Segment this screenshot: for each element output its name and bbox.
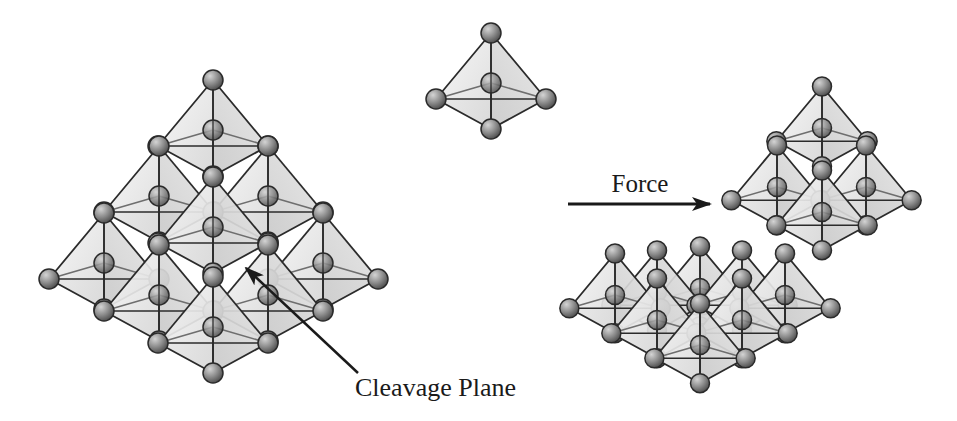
atom	[648, 241, 667, 260]
atom	[560, 299, 579, 318]
atom	[313, 301, 333, 321]
atom	[203, 167, 223, 187]
atom	[368, 269, 388, 289]
atom	[606, 244, 625, 263]
atom	[149, 235, 169, 255]
atom	[148, 333, 168, 353]
atom	[733, 241, 752, 260]
atom	[902, 191, 921, 210]
atom	[39, 269, 59, 289]
intact-crystal	[39, 70, 388, 383]
atom	[602, 324, 621, 343]
atom	[648, 269, 667, 288]
atom	[203, 267, 223, 287]
atom	[736, 349, 755, 368]
atom	[778, 324, 797, 343]
tetrahedron	[426, 23, 556, 139]
atom	[857, 136, 876, 155]
atom	[733, 269, 752, 288]
cleavage-diagram: Force Cleavage Plane	[0, 0, 957, 421]
atom	[821, 299, 840, 318]
atom	[149, 136, 169, 156]
atom	[313, 203, 333, 223]
atom	[94, 301, 114, 321]
atom	[813, 241, 832, 260]
atom	[767, 216, 786, 235]
atom	[536, 89, 556, 109]
atom	[481, 23, 501, 43]
atom	[258, 235, 278, 255]
force-arrow: Force	[568, 170, 710, 204]
cleavage-plane-label: Cleavage Plane	[355, 373, 516, 402]
atom	[722, 191, 741, 210]
atom	[768, 136, 787, 155]
atom	[813, 161, 832, 180]
atom	[481, 119, 501, 139]
atom	[94, 203, 114, 223]
atom	[691, 374, 710, 393]
atom	[691, 294, 710, 313]
atom	[858, 216, 877, 235]
atom	[203, 70, 223, 90]
atom	[203, 363, 223, 383]
atom	[691, 237, 710, 256]
atom	[258, 136, 278, 156]
force-label: Force	[612, 170, 669, 197]
atom	[813, 77, 832, 96]
cleaved-lower-fragment	[560, 237, 840, 393]
atom	[776, 244, 795, 263]
atom	[426, 89, 446, 109]
atom	[645, 349, 664, 368]
single-tetrahedron	[426, 23, 556, 139]
atom	[258, 333, 278, 353]
cleaved-upper-fragment	[722, 77, 921, 260]
